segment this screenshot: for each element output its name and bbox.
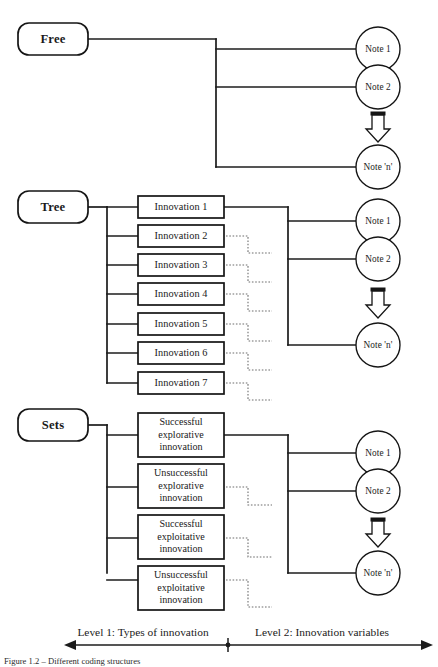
- sets-item-box-4[interactable]: [138, 566, 224, 610]
- sets-dotted-2: [226, 487, 272, 505]
- level-axis-right-arrowhead: [421, 640, 433, 650]
- free-notes: [356, 27, 400, 189]
- sets-item-box-1[interactable]: [138, 413, 224, 457]
- tree-dotted-links: [226, 236, 272, 400]
- tree-item-box-3[interactable]: [138, 254, 224, 276]
- tree-root-node[interactable]: [18, 191, 88, 223]
- sets-down-block-arrow-icon: [366, 518, 390, 547]
- sets-dotted-4: [226, 580, 272, 607]
- tree-item-box-5[interactable]: [138, 313, 224, 335]
- sets-note-2-circle[interactable]: [356, 469, 400, 513]
- tree-item-box-4[interactable]: [138, 283, 224, 305]
- tree-down-block-arrow-icon: [366, 288, 390, 318]
- tree-item-box-1[interactable]: [138, 196, 224, 218]
- level-axis-center-dot: [226, 643, 231, 648]
- tree-root-box[interactable]: [18, 191, 88, 223]
- free-note-2-circle[interactable]: [356, 65, 400, 109]
- free-note-n-circle[interactable]: [356, 145, 400, 189]
- level-axis: [64, 638, 433, 652]
- sets-root-node[interactable]: [18, 409, 88, 441]
- tree-dotted-3: [226, 265, 272, 282]
- tree-dotted-5: [226, 324, 272, 341]
- figure-caption: Figure 1.2 – Different coding structures: [4, 655, 434, 667]
- level-axis-left-arrowhead: [64, 640, 76, 650]
- tree-notes: [356, 199, 400, 367]
- sets-item-boxes: [138, 413, 224, 610]
- diagram-root: Free Note 1 Note 2 Note 'n' Tree Innovat…: [0, 0, 438, 667]
- tree-dotted-4: [226, 294, 272, 311]
- sets-notes: [356, 431, 400, 595]
- free-down-block-arrow-icon: [366, 112, 390, 142]
- sets-item-box-3[interactable]: [138, 515, 224, 559]
- sets-note-n-circle[interactable]: [356, 551, 400, 595]
- tree-dotted-6: [226, 353, 272, 370]
- sets-item-box-2[interactable]: [138, 464, 224, 508]
- free-section-wires: [88, 39, 356, 167]
- tree-dotted-2: [226, 236, 272, 253]
- tree-item-boxes: [138, 196, 224, 394]
- tree-item-box-2[interactable]: [138, 225, 224, 247]
- diagram-canvas: [0, 0, 438, 667]
- free-root-node[interactable]: [18, 23, 88, 55]
- tree-item-box-6[interactable]: [138, 342, 224, 364]
- sets-dotted-3: [226, 538, 272, 557]
- tree-dotted-7: [226, 383, 272, 400]
- free-root-box[interactable]: [18, 23, 88, 55]
- sets-dotted-links: [226, 487, 272, 607]
- sets-root-box[interactable]: [18, 409, 88, 441]
- tree-note-2-circle[interactable]: [356, 237, 400, 281]
- tree-item-box-7[interactable]: [138, 372, 224, 394]
- tree-note-n-circle[interactable]: [356, 323, 400, 367]
